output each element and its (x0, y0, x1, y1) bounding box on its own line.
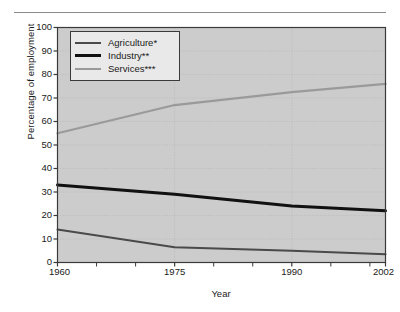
legend-label-services: Services*** (108, 62, 156, 75)
y-tick-label: 60 (22, 115, 52, 126)
y-tick-label: 90 (22, 45, 52, 56)
figure: Percentage of employment Year 0102030405… (0, 0, 400, 312)
legend-item-services: Services*** (75, 62, 174, 75)
legend-item-industry: Industry** (75, 49, 174, 62)
y-tick-label: 10 (22, 233, 52, 244)
legend-item-agriculture: Agriculture* (75, 36, 174, 49)
y-tick-label: 70 (22, 92, 52, 103)
y-tick-label: 20 (22, 209, 52, 220)
chart-legend: Agriculture* Industry** Services*** (70, 31, 180, 81)
x-tick-label: 1990 (267, 266, 317, 277)
y-tick-label: 40 (22, 162, 52, 173)
y-tick-label: 50 (22, 139, 52, 150)
legend-swatch-industry (75, 54, 101, 57)
y-tick-label: 30 (22, 186, 52, 197)
y-tick-label: 100 (22, 21, 52, 32)
legend-label-agriculture: Agriculture* (108, 36, 157, 49)
x-tick-label: 1960 (35, 266, 85, 277)
x-tick-label: 1975 (150, 266, 200, 277)
legend-swatch-agriculture (75, 42, 101, 44)
y-tick-label: 80 (22, 68, 52, 79)
x-axis-title: Year (57, 288, 385, 299)
legend-swatch-services (75, 68, 101, 70)
x-tick-label: 2002 (359, 266, 400, 277)
legend-label-industry: Industry** (108, 49, 149, 62)
